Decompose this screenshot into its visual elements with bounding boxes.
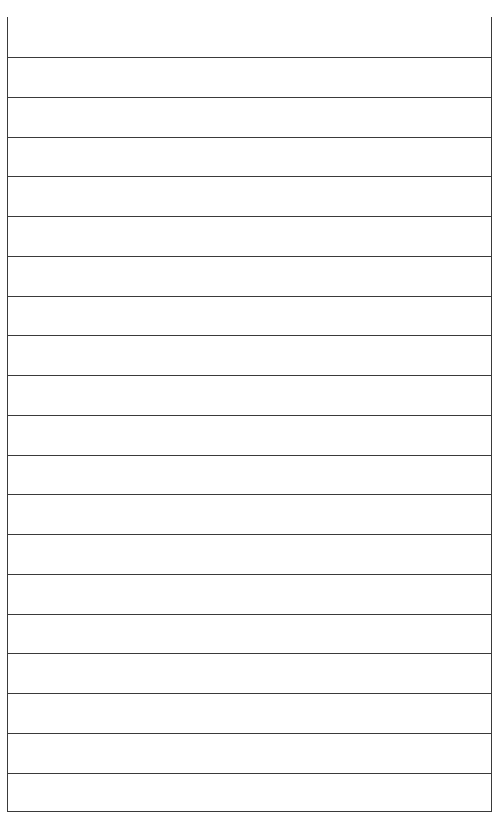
table-row — [8, 57, 491, 97]
table-row — [8, 614, 491, 654]
table-row — [8, 176, 491, 216]
table-row — [8, 216, 491, 256]
table-row — [8, 773, 491, 813]
table-row — [8, 733, 491, 773]
ruled-sheet — [7, 17, 492, 812]
table-row — [8, 574, 491, 614]
table-row — [8, 137, 491, 177]
table-row — [8, 335, 491, 375]
table-row — [8, 455, 491, 495]
table-row — [8, 97, 491, 137]
table-row — [8, 256, 491, 296]
table-row — [8, 693, 491, 733]
rows-container — [8, 57, 491, 812]
table-row — [8, 375, 491, 415]
header-row — [8, 17, 491, 57]
table-row — [8, 494, 491, 534]
table-row — [8, 534, 491, 574]
table-row — [8, 653, 491, 693]
table-row — [8, 415, 491, 455]
table-row — [8, 296, 491, 336]
